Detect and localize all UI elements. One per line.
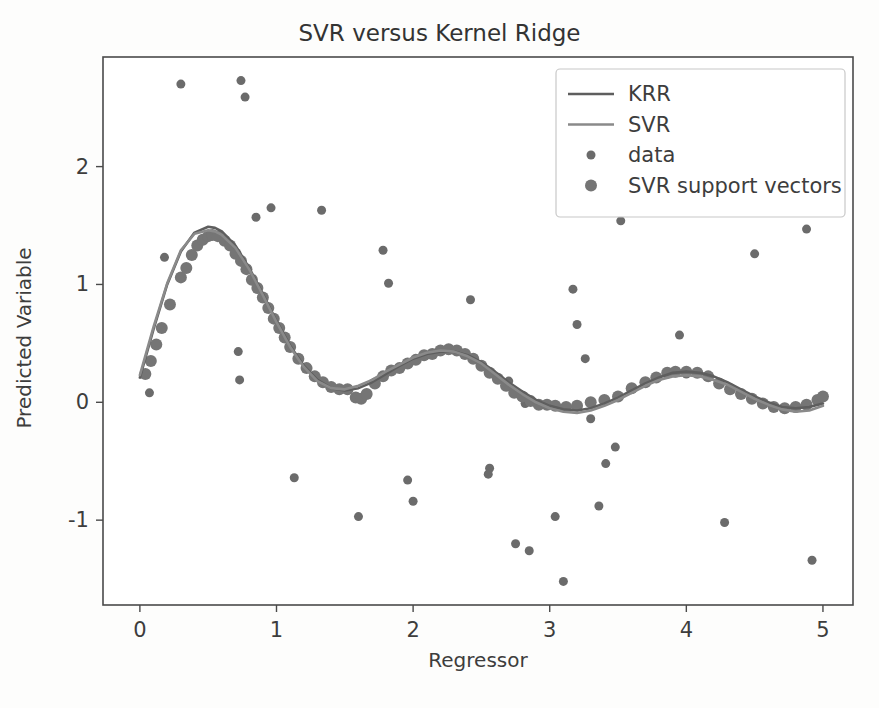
y-axis-title: Predicted Variable [12,247,36,428]
legend-item-label: KRR [628,82,671,106]
data-point [150,339,162,351]
x-tick-label: 2 [406,618,419,642]
figure-canvas: SVR versus Kernel Ridge 012345 -1012 Reg… [0,0,879,708]
data-point [160,253,169,262]
data-point [551,512,560,521]
x-tick-label: 0 [133,618,146,642]
data-point [616,216,625,225]
data-point [586,414,595,423]
data-point [384,279,393,288]
data-point [511,539,520,548]
data-point [808,556,817,565]
data-point [241,93,250,102]
data-point [525,546,534,555]
data-point [750,249,759,258]
data-point [164,298,176,310]
legend-marker-swatch [587,151,596,160]
y-tick-label: 2 [76,155,89,179]
data-point [802,225,811,234]
data-point [611,443,620,452]
data-point [252,213,261,222]
data-point [290,473,299,482]
chart-title: SVR versus Kernel Ridge [299,20,581,46]
data-point [675,331,684,340]
data-point [817,390,829,402]
data-point [484,470,493,479]
data-point [176,80,185,89]
x-tick-label: 4 [680,618,693,642]
data-point [581,354,590,363]
data-point [236,76,245,85]
legend-item-label: SVR support vectors [628,174,842,198]
data-point [573,320,582,329]
data-point [720,518,729,527]
data-point [403,476,412,485]
data-point [594,502,603,511]
data-point [409,497,418,506]
data-point [568,285,577,294]
x-tick-label: 1 [270,618,283,642]
data-point [466,295,475,304]
legend-item-label: data [628,143,675,167]
legend-item-label: SVR [628,113,670,137]
chart-legend[interactable]: KRRSVRdataSVR support vectors [556,69,845,217]
data-point [354,512,363,521]
data-point [180,262,192,274]
data-point [361,388,373,400]
data-point [601,459,610,468]
y-tick-label: -1 [68,508,89,532]
data-point [317,206,326,215]
data-point [559,577,568,586]
y-tick-label: 0 [76,390,89,414]
data-point [235,375,244,384]
data-point [267,203,276,212]
data-point [234,347,243,356]
data-point [145,388,154,397]
x-axis-title: Regressor [428,648,528,672]
data-point [379,246,388,255]
x-tick-label: 3 [543,618,556,642]
svr-vs-kernel-ridge-chart: SVR versus Kernel Ridge 012345 -1012 Reg… [0,0,879,708]
data-point [156,322,168,334]
y-tick-label: 1 [76,272,89,296]
x-tick-label: 5 [816,618,829,642]
legend-marker-swatch [585,180,597,192]
